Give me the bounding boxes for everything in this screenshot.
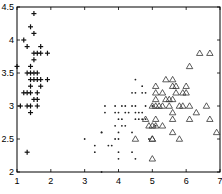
dot-marker: [124, 112, 126, 114]
dot-marker: [131, 151, 133, 153]
dot-marker: [94, 151, 96, 153]
x-tick-label: 7: [217, 176, 222, 186]
dot-marker: [114, 112, 116, 114]
dot-marker: [84, 138, 86, 140]
y-tick-label: 3.5: [1, 68, 14, 78]
x-tick-label: 4: [116, 176, 121, 186]
y-tick-label: 2: [9, 167, 14, 177]
dot-marker: [107, 145, 109, 147]
dot-marker: [138, 118, 140, 120]
dot-marker: [141, 92, 143, 94]
dot-marker: [114, 125, 116, 127]
y-tick-label: 3: [9, 101, 14, 111]
dot-marker: [101, 171, 103, 173]
dot-marker: [124, 125, 126, 127]
dot-marker: [145, 118, 147, 120]
dot-marker: [155, 125, 157, 127]
dot-marker: [145, 105, 147, 107]
dot-marker: [104, 112, 106, 114]
dot-marker: [118, 118, 120, 120]
dot-marker: [118, 151, 120, 153]
y-tick-label: 2.5: [1, 134, 14, 144]
dot-marker: [118, 112, 120, 114]
x-tick-label: 1: [14, 176, 19, 186]
plot-frame: [17, 7, 220, 172]
dot-marker: [118, 138, 120, 140]
dot-marker: [118, 132, 120, 134]
scatter-chart: 1234567 22.533.544.5: [0, 0, 222, 194]
dot-marker: [141, 85, 143, 87]
dot-marker: [141, 112, 143, 114]
dot-marker: [121, 118, 123, 120]
dot-marker: [104, 105, 106, 107]
dot-marker: [114, 105, 116, 107]
dot-marker: [128, 112, 130, 114]
dot-marker: [135, 158, 137, 160]
dot-marker: [101, 132, 103, 134]
x-tick-label: 5: [150, 176, 155, 186]
dot-marker: [148, 138, 150, 140]
y-tick-label: 4.5: [1, 2, 14, 12]
y-tick-label: 4: [9, 35, 14, 45]
dot-marker: [121, 105, 123, 107]
dot-marker: [135, 112, 137, 114]
x-tick-label: 2: [48, 176, 53, 186]
dot-marker: [135, 105, 137, 107]
dot-marker: [131, 132, 133, 134]
dot-marker: [94, 145, 96, 147]
dot-marker: [121, 125, 123, 127]
dot-marker: [138, 112, 140, 114]
dot-marker: [135, 118, 137, 120]
dot-marker: [111, 145, 113, 147]
dot-marker: [151, 105, 153, 107]
dot-marker: [135, 92, 137, 94]
dot-marker: [141, 118, 143, 120]
dot-marker: [124, 105, 126, 107]
dot-marker: [118, 158, 120, 160]
dot-marker: [131, 92, 133, 94]
x-tick-label: 3: [82, 176, 87, 186]
dot-marker: [135, 79, 137, 81]
x-tick-label: 6: [184, 176, 189, 186]
dot-marker: [114, 138, 116, 140]
dot-marker: [145, 92, 147, 94]
dot-marker: [131, 105, 133, 107]
